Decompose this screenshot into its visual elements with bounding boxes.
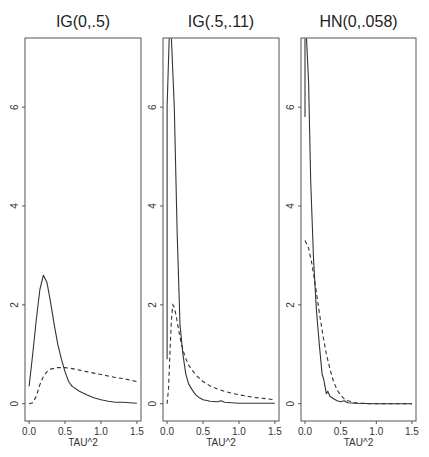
y-tick-label: 0 xyxy=(9,400,20,406)
x-tick-label: 0.5 xyxy=(58,426,72,437)
y-tick-label: 0 xyxy=(285,400,296,406)
x-tick-label: 1.0 xyxy=(94,426,108,437)
panel-hn-0-0058: HN(0,.058)02460.00.51.01.5TAU^2 xyxy=(285,13,419,448)
y-tick-label: 6 xyxy=(147,104,158,110)
x-axis-label: TAU^2 xyxy=(68,437,98,448)
x-tick-label: 1.5 xyxy=(130,426,144,437)
x-tick-label: 0.5 xyxy=(334,426,348,437)
y-tick-label: 0 xyxy=(147,400,158,406)
y-tick-label: 6 xyxy=(9,104,20,110)
x-tick-label: 1.0 xyxy=(232,426,246,437)
x-axis-label: TAU^2 xyxy=(344,437,374,448)
posterior-density-curve xyxy=(167,38,275,403)
x-tick-label: 1.5 xyxy=(405,426,419,437)
plot-frame xyxy=(163,38,279,421)
x-tick-label: 0.0 xyxy=(160,426,174,437)
x-tick-label: 0.5 xyxy=(196,426,210,437)
posterior-density-curve xyxy=(305,38,412,404)
chart-figure: IG(0,.5)02460.00.51.01.5TAU^2 IG(.5,.11)… xyxy=(0,0,429,457)
y-tick-label: 2 xyxy=(9,302,20,308)
panel-title: HN(0,.058) xyxy=(319,13,397,30)
panel-title: IG(0,.5) xyxy=(56,13,110,30)
x-axis-label: TAU^2 xyxy=(206,437,236,448)
x-tick-label: 0.0 xyxy=(298,426,312,437)
panel-ig-05-011: IG(.5,.11)02460.00.51.01.5TAU^2 xyxy=(147,13,282,448)
y-tick-label: 2 xyxy=(147,302,158,308)
panel-title: IG(.5,.11) xyxy=(188,13,254,30)
y-tick-label: 2 xyxy=(285,302,296,308)
plot-frame xyxy=(301,38,416,421)
y-tick-label: 4 xyxy=(9,203,20,209)
posterior-density-curve xyxy=(29,275,137,403)
prior-density-curve xyxy=(29,368,137,404)
x-tick-label: 1.0 xyxy=(369,426,383,437)
plot-frame xyxy=(25,38,141,421)
y-tick-label: 4 xyxy=(285,203,296,209)
panel-ig-0-05: IG(0,.5)02460.00.51.01.5TAU^2 xyxy=(9,13,144,448)
prior-density-curve xyxy=(305,241,412,404)
x-tick-label: 1.5 xyxy=(268,426,282,437)
y-tick-label: 6 xyxy=(285,104,296,110)
x-tick-label: 0.0 xyxy=(22,426,36,437)
y-tick-label: 4 xyxy=(147,203,158,209)
